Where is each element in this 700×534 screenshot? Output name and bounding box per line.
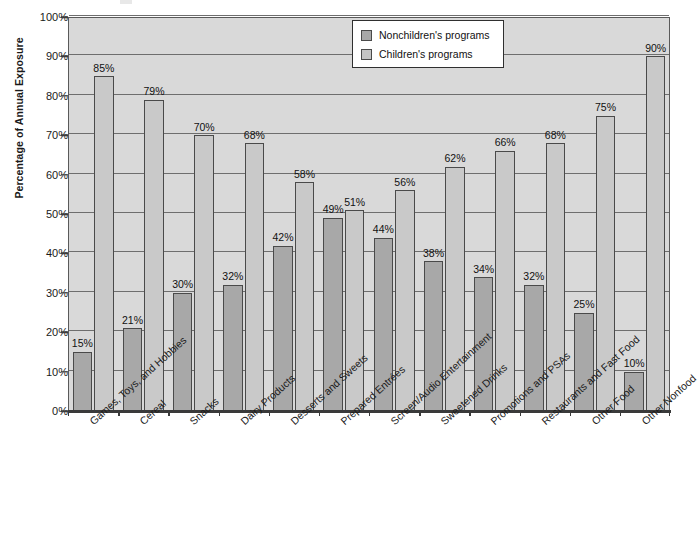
x-axis-category-label: Cereal: [137, 397, 168, 427]
legend-item-label: Children's programs: [379, 48, 473, 60]
legend-swatch-icon: [361, 49, 372, 60]
x-axis-category-label: Other Food: [589, 382, 637, 426]
x-axis-category-label: Snacks: [187, 395, 221, 427]
x-axis-category-label: Other Nonfood: [639, 372, 698, 427]
x-axis-category-label: Games, Toys, and Hobbies: [87, 334, 189, 427]
x-axis-category-label: Restaurants and Fast Food: [539, 333, 642, 427]
x-axis-category-labels: Games, Toys, and HobbiesCerealSnacksDair…: [0, 0, 700, 534]
legend-item[interactable]: Children's programs: [361, 45, 495, 63]
legend-item-label: Nonchildren's programs: [379, 29, 490, 41]
chart-figure: Percentage of Annual Exposure 0%10%20%30…: [0, 0, 700, 534]
chart-legend: Nonchildren's programsChildren's program…: [352, 20, 504, 68]
x-axis-category-label: Screen/Audio Entertainment: [388, 330, 494, 427]
legend-item[interactable]: Nonchildren's programs: [361, 26, 495, 44]
legend-swatch-icon: [361, 30, 372, 41]
